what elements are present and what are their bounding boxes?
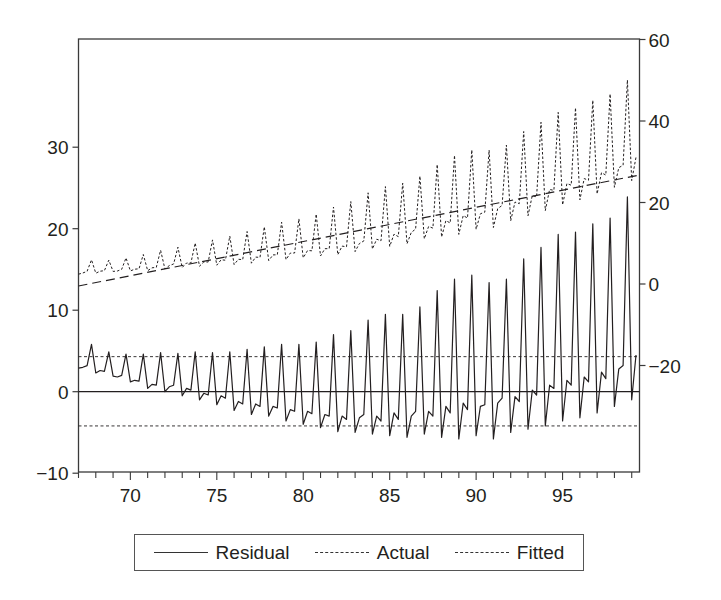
plot-frame [79,39,640,472]
left-axis-tick-label: 10 [47,300,68,321]
x-axis-tick-label: 85 [379,485,400,506]
legend-item-fitted: Fitted [455,542,565,564]
right-axis-tick-label: −20 [649,356,681,377]
residual-actual-fitted-chart: −100102030 −200204060 707580859095 [0,0,721,530]
series-layer [79,80,640,439]
left-axis-tick-label: 0 [58,382,69,403]
actual-series-line [79,80,637,274]
x-axis-tick-label: 75 [206,485,227,506]
legend-label-residual: Residual [216,542,290,564]
x-axis-tick-label: 70 [120,485,141,506]
legend-item-actual: Actual [315,542,430,564]
right-axis-tick-label: 60 [649,30,670,51]
left-y-axis: −100102030 [36,137,78,484]
x-axis: 707580859095 [79,472,632,506]
x-axis-tick-label: 90 [466,485,487,506]
legend-label-actual: Actual [377,542,430,564]
fitted-series-line [79,175,640,286]
x-axis-tick-label: 80 [293,485,314,506]
dotted-line-icon [315,552,369,553]
solid-line-icon [154,552,208,553]
x-axis-tick-label: 95 [552,485,573,506]
right-axis-tick-label: 20 [649,193,670,214]
right-axis-tick-label: 40 [649,111,670,132]
left-axis-tick-label: 30 [47,137,68,158]
left-axis-tick-label: −10 [36,463,68,484]
left-axis-tick-label: 20 [47,219,68,240]
chart-legend: Residual Actual Fitted [134,534,584,571]
legend-label-fitted: Fitted [517,542,565,564]
right-axis-tick-label: 0 [649,274,660,295]
residual-series-line [79,197,637,439]
legend-item-residual: Residual [154,542,290,564]
right-y-axis: −200204060 [640,30,681,377]
dashed-line-icon [455,552,509,553]
